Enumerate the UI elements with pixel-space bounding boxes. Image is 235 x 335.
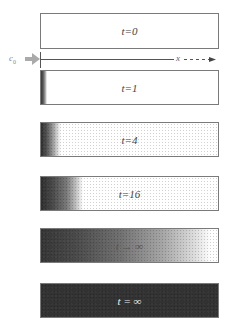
source-arrow-icon: [25, 53, 40, 65]
x-axis: c0 x: [0, 50, 235, 70]
panel-label-t-approaching-infinity: t → ∞: [116, 240, 143, 252]
panel-t-approaching-infinity: t → ∞: [40, 228, 219, 263]
axis-arrowhead-icon: [209, 57, 216, 62]
panel-t16: t=16: [40, 176, 219, 211]
panel-t-infinity: t = ∞: [40, 283, 219, 318]
panel-label-t1: t=1: [122, 82, 138, 94]
panel-label-t0: t=0: [122, 25, 138, 37]
panel-label-t16: t=16: [119, 188, 140, 200]
panel-t4: t=4: [40, 122, 219, 157]
axis-label-x: x: [176, 53, 180, 63]
axis-graphic: [0, 50, 235, 70]
panel-t1: t=1: [40, 70, 219, 105]
panel-label-t-infinity: t = ∞: [118, 295, 142, 307]
panel-t0: t=0: [40, 13, 219, 49]
panel-label-t4: t=4: [122, 134, 138, 146]
